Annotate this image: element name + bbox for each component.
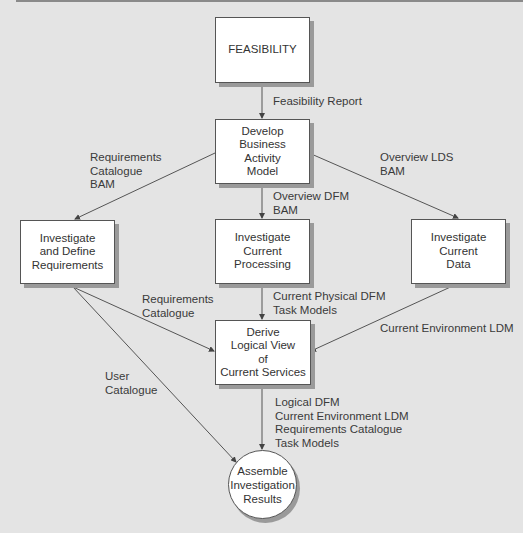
node-assemble-results-label: Assemble Investigation Results [230,464,295,506]
node-investigate-data: Investigate Current Data [411,219,506,284]
flow-label-current-physical-dfm: Current Physical DFM Task Models [273,290,385,317]
flow-label-user-catalogue: User Catalogue [105,370,157,397]
node-develop-bam: Develop Business Activity Model [215,119,310,184]
node-derive-logical-view-label: Derive Logical View of Current Services [220,326,306,380]
node-derive-logical-view: Derive Logical View of Current Services [215,320,311,385]
node-feasibility-label: FEASIBILITY [228,43,296,57]
node-investigate-data-label: Investigate Current Data [431,231,487,272]
diagram-canvas: FEASIBILITY Develop Business Activity Mo… [0,0,523,533]
node-develop-bam-label: Develop Business Activity Model [239,125,286,179]
flow-label-overview-lds-bam: Overview LDS BAM [380,151,454,178]
flow-label-current-environment-ldm: Current Environment LDM [380,322,514,336]
flow-label-requirements-catalogue-bam: Requirements Catalogue BAM [90,151,162,192]
node-investigate-processing: Investigate Current Processing [215,219,310,284]
flow-label-requirements-catalogue: Requirements Catalogue [142,293,214,320]
flow-label-final-outputs: Logical DFM Current Environment LDM Requ… [275,396,409,450]
node-investigate-requirements: Investigate and Define Requirements [20,220,115,284]
node-assemble-results: Assemble Investigation Results [228,450,297,519]
node-investigate-processing-label: Investigate Current Processing [234,231,291,272]
node-feasibility: FEASIBILITY [215,17,310,83]
node-investigate-requirements-label: Investigate and Define Requirements [32,232,104,273]
flow-label-feasibility-report: Feasibility Report [273,95,362,109]
flow-label-overview-dfm-bam: Overview DFM BAM [273,190,349,217]
